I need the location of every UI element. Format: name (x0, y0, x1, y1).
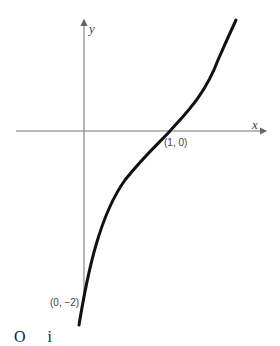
cut-off-caption: O i (14, 328, 61, 346)
function-curve (79, 20, 236, 325)
x-axis-label: x (252, 117, 258, 133)
root-point-label: (1, 0) (164, 137, 187, 148)
y-axis-label: y (89, 21, 95, 37)
y-intercept-label: (0, −2) (50, 297, 79, 308)
